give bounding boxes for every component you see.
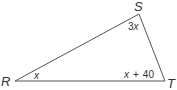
vertex-label-t: T — [167, 76, 176, 90]
angle-t-op: + — [133, 69, 139, 80]
angle-t-var: x — [123, 69, 130, 80]
triangle-diagram: R S T x 3x x+40 — [0, 0, 177, 90]
vertex-label-s: S — [134, 0, 143, 14]
angle-s-label: 3x — [128, 21, 140, 32]
angle-r-label: x — [33, 70, 40, 81]
angle-t-label: x+40 — [123, 69, 154, 80]
angle-t-const: 40 — [143, 69, 155, 80]
angle-s-var: x — [133, 21, 140, 32]
vertex-label-r: R — [1, 74, 10, 89]
